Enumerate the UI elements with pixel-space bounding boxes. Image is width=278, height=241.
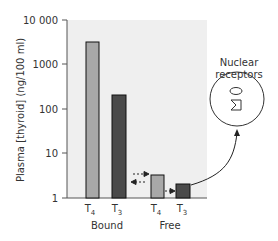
group-label-bound: Bound: [91, 220, 123, 231]
tick-label: 1: [52, 193, 58, 204]
y-axis-label: Plasma [thyroid] (ng/100 ml): [15, 38, 26, 182]
tick-label: 1000: [33, 59, 58, 70]
y-ticks: [62, 20, 67, 198]
cat-label: T4: [84, 203, 96, 217]
bar-free-t3: [176, 184, 190, 198]
tick-label: 10 000: [23, 15, 58, 26]
cat-label: T3: [111, 203, 123, 217]
bar-free-t4: [151, 175, 164, 198]
arrow-head-icon: [234, 129, 240, 136]
bar-bound-t4: [86, 42, 99, 198]
tick-label: 10: [45, 148, 58, 159]
tick-label: 100: [39, 104, 58, 115]
group-label-free: Free: [159, 220, 180, 231]
nuclear-label-line2: receptors: [215, 69, 262, 80]
nucleus-circle: [210, 72, 264, 126]
chart: 10 000 1000 100 10 1 Plasma [thyroid] (n…: [0, 0, 278, 241]
cat-label: T3: [176, 203, 188, 217]
cat-label: T4: [150, 203, 162, 217]
bar-bound-t3: [112, 95, 126, 198]
nuclear-label-line1: Nuclear: [220, 57, 259, 68]
